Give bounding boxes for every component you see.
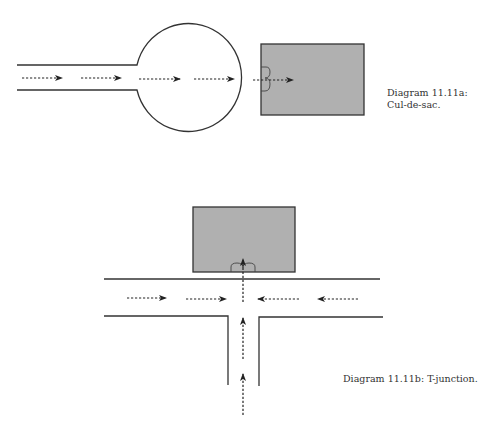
cul-de-sac-diagram — [17, 23, 364, 131]
caption-diagram-a: Diagram 11.11a: Cul-de-sac. — [387, 87, 468, 111]
flow-arrows-a — [22, 78, 293, 80]
flow-arrows-b — [127, 259, 358, 415]
building-a — [261, 44, 364, 115]
caption-a-line2: Cul-de-sac. — [387, 99, 468, 111]
caption-diagram-b: Diagram 11.11b: T-junction. — [343, 373, 478, 385]
caption-a-line1: Diagram 11.11a: — [387, 87, 468, 99]
building-b — [193, 207, 295, 272]
t-junction-diagram — [104, 207, 383, 415]
side-road-left-edge — [104, 316, 228, 385]
diagram-canvas — [0, 0, 486, 432]
